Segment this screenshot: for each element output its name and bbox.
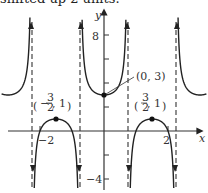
tick-label-neg4: −4 bbox=[86, 173, 102, 186]
arrow-head-icon bbox=[78, 22, 84, 29]
callout-line bbox=[106, 77, 134, 94]
svg-text:): ) bbox=[162, 100, 166, 113]
data-point bbox=[101, 92, 106, 97]
point-label-right: ( 3 2 , 1 ) bbox=[134, 91, 166, 114]
x-axis-label: x bbox=[199, 132, 206, 145]
svg-text:, 1: , 1 bbox=[147, 97, 161, 110]
tick-label-neg2: −2 bbox=[38, 134, 54, 147]
y-axis-label: y bbox=[94, 9, 102, 22]
secant-graph: y x 8 −4 −2 2 (0, 3) ( − 3 2 , 1 ) ( 3 2… bbox=[0, 0, 208, 193]
point-label-left: ( − 3 2 , 1 ) bbox=[33, 91, 71, 114]
arrow-head-icon bbox=[28, 22, 34, 29]
svg-text:(: ( bbox=[33, 100, 37, 113]
tick-label-8: 8 bbox=[92, 30, 99, 43]
point-label-center: (0, 3) bbox=[136, 70, 166, 83]
svg-text:, 1: , 1 bbox=[52, 97, 66, 110]
data-point bbox=[149, 116, 154, 121]
secant-branch bbox=[34, 119, 77, 188]
secant-branch bbox=[130, 119, 173, 188]
arrow-head-icon bbox=[174, 22, 180, 29]
svg-text:(: ( bbox=[134, 100, 138, 113]
svg-text:): ) bbox=[67, 100, 71, 113]
secant-branch bbox=[178, 18, 206, 95]
tick-label-2: 2 bbox=[163, 134, 170, 147]
arrow-head-icon bbox=[124, 22, 130, 29]
secant-branch bbox=[2, 18, 30, 95]
data-point bbox=[53, 116, 58, 121]
